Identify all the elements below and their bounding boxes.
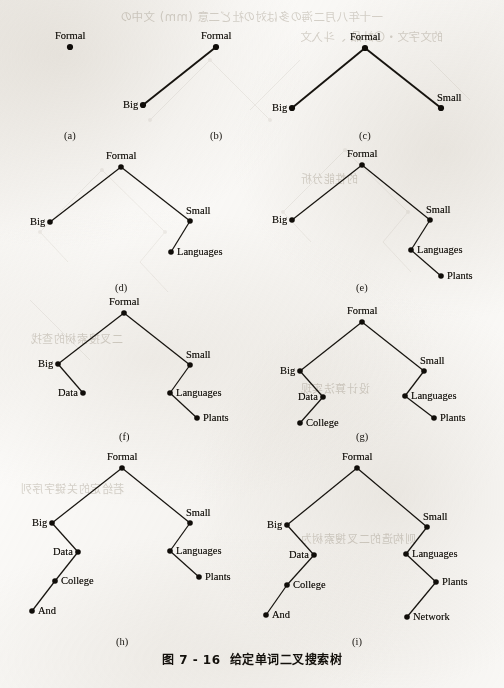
figure-caption: 图 7 - 16给定单词二叉搜索树 — [0, 650, 504, 667]
tree-node-dot-small — [421, 368, 427, 374]
tree-node-dot-plants — [438, 273, 444, 279]
tree-panel-a — [67, 44, 73, 50]
tree-node-dot-data — [80, 390, 86, 396]
tree-node-dot-plants — [433, 579, 439, 585]
tree-node-label-and: And — [38, 606, 56, 617]
tree-node-dot-small — [187, 218, 193, 224]
tree-node-label-and: And — [272, 610, 290, 621]
tree-node-label-data: Data — [298, 392, 318, 403]
panel-subcaption-f: (f) — [119, 432, 130, 443]
tree-node-dot-big — [297, 368, 303, 374]
tree-node-label-formal: Formal — [201, 31, 231, 42]
tree-node-label-college: College — [61, 576, 94, 587]
tree-node-dot-data — [320, 394, 326, 400]
tree-node-label-data: Data — [58, 388, 78, 399]
panel-subcaption-d: (d) — [115, 283, 127, 294]
tree-edge-formal-big — [52, 468, 122, 523]
tree-node-label-small: Small — [186, 350, 211, 361]
tree-edge-formal-small — [365, 48, 441, 108]
tree-edge-formal-small — [122, 468, 190, 523]
tree-node-label-big: Big — [272, 103, 287, 114]
tree-node-label-college: College — [306, 418, 339, 429]
tree-node-label-languages: Languages — [176, 388, 221, 399]
panel-subcaption-a: (a) — [64, 131, 76, 142]
tree-node-label-formal: Formal — [347, 306, 377, 317]
tree-node-label-plants: Plants — [205, 572, 231, 583]
tree-node-dot-languages — [403, 551, 409, 557]
tree-node-label-formal: Formal — [107, 452, 137, 463]
tree-edge-formal-small — [357, 468, 427, 527]
tree-panel-c — [289, 45, 444, 111]
tree-node-label-small: Small — [186, 508, 211, 519]
tree-panel-h — [29, 465, 202, 614]
bleed-through-text: 一十年八月二海の多は対の社ど二意 (mm) 文中の — [120, 8, 383, 24]
tree-node-dot-plants — [196, 574, 202, 580]
tree-node-dot-small — [427, 217, 433, 223]
bleed-through-text: 若给定的关键字序列 — [20, 480, 124, 496]
tree-node-dot-big — [47, 219, 53, 225]
tree-node-dot-languages — [167, 390, 173, 396]
tree-node-dot-small — [424, 524, 430, 530]
tree-node-label-network: Network — [413, 612, 450, 623]
panel-subcaption-h: (h) — [116, 637, 128, 648]
tree-edge-formal-big — [287, 468, 357, 525]
tree-node-label-formal: Formal — [350, 32, 380, 43]
tree-node-label-formal: Formal — [342, 452, 372, 463]
tree-node-dot-big — [49, 520, 55, 526]
tree-node-label-small: Small — [426, 205, 451, 216]
tree-node-dot-small — [187, 362, 193, 368]
tree-node-dot-small — [187, 520, 193, 526]
tree-node-dot-formal — [359, 162, 365, 168]
tree-node-dot-plants — [194, 415, 200, 421]
tree-edge-formal-small — [362, 165, 430, 220]
tree-node-label-small: Small — [423, 512, 448, 523]
tree-node-dot-small — [438, 105, 444, 111]
tree-node-label-big: Big — [280, 366, 295, 377]
tree-panel-g — [297, 319, 437, 426]
panel-subcaption-i: (i) — [352, 637, 362, 648]
tree-node-dot-college — [284, 582, 290, 588]
bleed-through-text: 二叉搜索树的查找 — [30, 330, 123, 346]
figure-caption-title: 给定单词二叉搜索树 — [230, 653, 343, 667]
tree-node-label-data: Data — [289, 550, 309, 561]
tree-node-dot-languages — [167, 548, 173, 554]
tree-node-label-big: Big — [123, 100, 138, 111]
tree-node-label-small: Small — [437, 93, 462, 104]
tree-node-dot-formal — [119, 465, 125, 471]
tree-node-label-college: College — [293, 580, 326, 591]
panel-subcaption-g: (g) — [356, 432, 368, 443]
tree-node-dot-big — [284, 522, 290, 528]
tree-panel-i — [263, 465, 439, 620]
tree-node-label-languages: Languages — [177, 247, 222, 258]
tree-node-dot-formal — [359, 319, 365, 325]
tree-node-label-languages: Languages — [176, 546, 221, 557]
tree-edge-formal-big — [143, 47, 216, 105]
tree-node-label-formal: Formal — [347, 149, 377, 160]
panel-subcaption-b: (b) — [210, 131, 222, 142]
tree-node-dot-college — [52, 578, 58, 584]
tree-node-label-small: Small — [420, 356, 445, 367]
tree-node-label-big: Big — [38, 359, 53, 370]
tree-panel-f — [55, 310, 200, 421]
tree-node-dot-college — [297, 420, 303, 426]
tree-panel-e — [289, 162, 444, 279]
tree-node-dot-data — [311, 552, 317, 558]
tree-node-label-languages: Languages — [417, 245, 462, 256]
tree-node-label-big: Big — [30, 217, 45, 228]
bleed-through-text: 则构造的二叉搜索树为 — [300, 530, 416, 546]
tree-node-label-formal: Formal — [55, 31, 85, 42]
tree-node-label-big: Big — [272, 215, 287, 226]
tree-node-label-languages: Languages — [412, 549, 457, 560]
tree-node-dot-languages — [168, 249, 174, 255]
tree-node-label-plants: Plants — [447, 271, 473, 282]
tree-node-label-small: Small — [186, 206, 211, 217]
tree-edge-formal-big — [300, 322, 362, 371]
panel-subcaption-e: (e) — [356, 283, 368, 294]
tree-node-dot-and — [263, 612, 269, 618]
tree-edge-formal-small — [121, 167, 190, 221]
panel-subcaption-c: (c) — [359, 131, 371, 142]
tree-node-label-big: Big — [267, 520, 282, 531]
tree-node-dot-formal — [213, 44, 219, 50]
tree-edge-formal-big — [292, 165, 362, 220]
scanned-page: 一十年八月二海の多は対の社ど二意 (mm) 文中の的文字文・〇計品 、斗入文的性… — [0, 0, 504, 688]
